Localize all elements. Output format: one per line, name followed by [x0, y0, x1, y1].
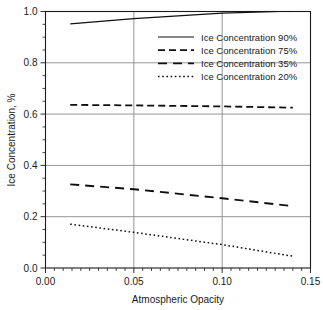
chart-figure: 0.000.050.100.15 0.00.20.40.60.81.0 Atmo… [0, 0, 323, 310]
y-tick-label: 0.6 [24, 109, 38, 120]
x-tick-label: 0.15 [301, 276, 321, 287]
x-axis-title: Atmospheric Opacity [132, 294, 224, 305]
line-chart: 0.000.050.100.15 0.00.20.40.60.81.0 Atmo… [0, 0, 323, 310]
legend-label-3: Ice Concentration 35% [201, 58, 298, 69]
x-tick-label: 0.10 [212, 276, 232, 287]
y-tick-label: 0.4 [24, 160, 38, 171]
y-tick-label: 1.0 [24, 6, 38, 17]
legend-label-4: Ice Concentration 20% [201, 71, 298, 82]
y-tick-label: 0.0 [24, 263, 38, 274]
legend-label-2: Ice Concentration 75% [201, 45, 298, 56]
legend-label-1: Ice Concentration 90% [201, 32, 298, 43]
y-tick-label: 0.8 [24, 57, 38, 68]
y-tick-label: 0.2 [24, 211, 38, 222]
y-axis-title: Ice Concentration, % [6, 93, 17, 186]
x-tick-label: 0.00 [36, 276, 56, 287]
x-tick-label: 0.05 [124, 276, 144, 287]
